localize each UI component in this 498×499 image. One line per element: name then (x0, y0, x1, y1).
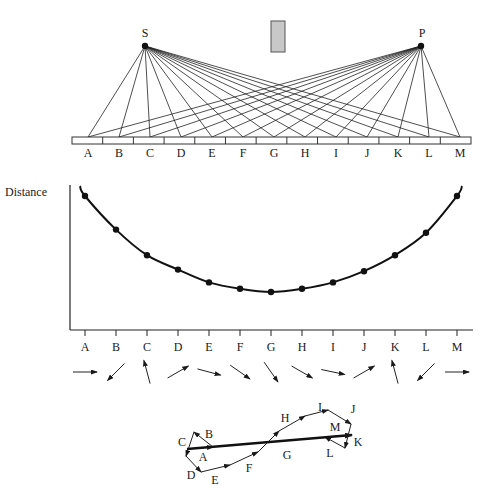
phasor-label-B: B (205, 427, 213, 441)
phasor-E (201, 465, 230, 472)
x-label-A: A (81, 340, 90, 354)
figure: S P ABCDEFGHIJKLM Distance ABCDEFGHIJKLM… (0, 0, 498, 499)
phasor-label-D: D (187, 468, 196, 482)
data-points (82, 193, 460, 295)
blocking-screen (271, 21, 285, 52)
data-point-E (206, 279, 212, 285)
mirror-label-J: J (365, 146, 370, 160)
mirror-label-L: L (425, 146, 432, 160)
phasor-F (230, 452, 258, 465)
x-tick-labels: ABCDEFGHIJKLM (81, 340, 463, 354)
source-label: S (142, 26, 149, 40)
phase-arrow-J (354, 366, 375, 378)
phase-arrow-F (230, 365, 250, 379)
detector-point-P (418, 43, 424, 49)
phasor-label-F: F (246, 461, 253, 475)
phasor-label-G: G (283, 448, 292, 462)
x-label-H: H (298, 340, 307, 354)
detector-label: P (419, 26, 426, 40)
phase-arrow-K (392, 360, 398, 383)
data-point-F (237, 286, 243, 292)
phase-arrow-G (264, 362, 278, 382)
phase-arrow-I (321, 370, 344, 375)
x-label-J: J (362, 340, 367, 354)
data-point-C (144, 252, 150, 258)
x-label-L: L (422, 340, 429, 354)
y-axis-label: Distance (5, 185, 47, 199)
phase-arrow-L (418, 364, 435, 381)
phasor-C (186, 432, 194, 456)
data-point-B (113, 226, 119, 232)
mirror-label-K: K (394, 146, 403, 160)
x-label-C: C (143, 340, 151, 354)
phasor-label-H: H (281, 411, 290, 425)
source-point-S (142, 43, 148, 49)
data-point-G (268, 289, 274, 295)
data-point-D (175, 266, 181, 272)
phasor-I (305, 410, 328, 416)
mirror-label-I: I (334, 146, 338, 160)
phasor-labels: ABCDEFGHIJKLM (178, 400, 363, 487)
phasor-sum-diagram: ABCDEFGHIJKLM (178, 400, 363, 487)
phasor-label-M: M (330, 420, 341, 434)
phasor-label-I: I (318, 400, 322, 414)
data-point-A (82, 193, 88, 199)
x-label-G: G (267, 340, 276, 354)
mirror-label-G: G (270, 146, 279, 160)
mirror-label-C: C (146, 146, 154, 160)
mirror-label-D: D (177, 146, 186, 160)
mirror-strip (72, 137, 471, 144)
x-label-E: E (205, 340, 212, 354)
data-point-L (423, 230, 429, 236)
phase-arrow-C (144, 360, 150, 383)
data-point-H (299, 286, 305, 292)
phase-arrow-B (108, 364, 125, 381)
phase-arrows (73, 360, 469, 383)
distance-chart: Distance ABCDEFGHIJKLM (5, 185, 473, 354)
data-point-I (330, 279, 336, 285)
phasor-label-J: J (351, 402, 356, 416)
phase-arrow-D (168, 366, 189, 378)
phasor-label-C: C (178, 435, 186, 449)
mirror-label-E: E (208, 146, 215, 160)
x-ticks (85, 330, 457, 336)
phasor-label-E: E (211, 473, 218, 487)
phase-arrow-H (292, 366, 313, 378)
mirror-label-H: H (301, 146, 310, 160)
light-rays (88, 46, 460, 137)
mirror-label-M: M (455, 146, 466, 160)
mirror-point-labels: ABCDEFGHIJKLM (84, 146, 466, 160)
mirror-label-B: B (115, 146, 123, 160)
mirror-label-A: A (84, 146, 93, 160)
phasor-label-L: L (326, 446, 333, 460)
phase-arrow-E (197, 369, 220, 375)
distance-curve (80, 186, 462, 292)
x-label-D: D (174, 340, 183, 354)
data-point-K (392, 252, 398, 258)
x-label-F: F (237, 340, 244, 354)
x-label-M: M (452, 340, 463, 354)
x-label-K: K (391, 340, 400, 354)
phasor-label-A: A (199, 450, 208, 464)
mirror-label-F: F (240, 146, 247, 160)
data-point-J (361, 268, 367, 274)
ray-diagram: S P ABCDEFGHIJKLM (72, 21, 471, 160)
phasor-label-K: K (354, 435, 363, 449)
x-label-I: I (331, 340, 335, 354)
data-point-M (454, 193, 460, 199)
x-label-B: B (112, 340, 120, 354)
